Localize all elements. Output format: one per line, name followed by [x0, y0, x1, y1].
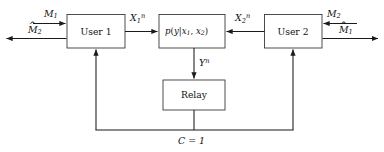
label-m1: M1 — [44, 9, 58, 20]
label-conference-capacity: C = 1 — [178, 136, 205, 145]
block-diagram: User 1 User 2 Relay — [0, 0, 384, 152]
label-yn-sup: n — [205, 57, 209, 65]
label-x1n-letter: X — [130, 12, 137, 23]
label-m1-sub: 1 — [54, 12, 58, 20]
channel-close: ) — [205, 26, 208, 36]
label-m2-hat: ^M2 — [28, 25, 42, 36]
block-user2-label: User 2 — [277, 26, 308, 37]
block-relay-label: Relay — [181, 89, 208, 100]
label-m2-hat-letter-wrap: ^M — [28, 25, 38, 34]
hat-accent-icon: ^ — [29, 20, 37, 29]
diagram-canvas: User 1 User 2 Relay p(y|x1, x2) M1 — [0, 0, 384, 152]
label-conference-text: C = 1 — [178, 135, 205, 146]
label-m1-hat-letter-wrap: ^M — [339, 25, 349, 34]
hat-accent-icon-2: ^ — [340, 20, 348, 29]
label-m1-hat-sub: 1 — [349, 28, 353, 36]
label-x2n-letter: X — [235, 12, 242, 23]
label-x1n-sup: n — [141, 12, 145, 20]
block-channel-label: p(y|x1, x2) — [165, 27, 208, 36]
label-m2-hat-sub: 2 — [38, 28, 42, 36]
label-m1-hat: ^M1 — [339, 25, 353, 36]
label-m2-letter: M — [327, 8, 337, 19]
label-x1n: X1n — [130, 13, 145, 24]
label-m1-letter: M — [44, 8, 54, 19]
label-x2n-sup: n — [246, 12, 250, 20]
label-x2n: X2n — [235, 13, 250, 24]
label-yn: Yn — [199, 58, 209, 68]
block-user1-label: User 1 — [80, 26, 111, 37]
